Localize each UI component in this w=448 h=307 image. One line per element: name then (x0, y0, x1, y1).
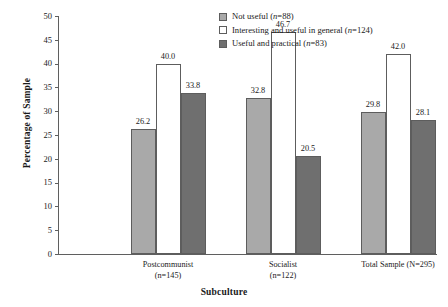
y-axis-tick-label: 40 (28, 59, 52, 68)
x-axis-title: Subculture (0, 287, 448, 297)
bar (296, 156, 321, 254)
y-axis-tick-label: 25 (28, 131, 52, 140)
y-axis-tick-label: 20 (28, 155, 52, 164)
y-axis-tick-mark (55, 183, 59, 184)
legend-swatch (219, 26, 227, 34)
bar-value-label: 28.1 (405, 109, 442, 117)
legend-label: Not useful (n=88) (232, 11, 294, 21)
bar (361, 112, 386, 254)
legend-item: Not useful (n=88) (219, 11, 434, 21)
x-axis-line (58, 254, 437, 255)
legend-swatch (219, 13, 227, 21)
bar-value-label: 40.0 (150, 53, 187, 61)
bar (271, 32, 296, 254)
y-axis-tick-mark (55, 135, 59, 136)
y-axis-tick-label: 35 (28, 83, 52, 92)
y-axis-tick-mark (55, 111, 59, 112)
legend-item: Useful and practical (n=83) (219, 38, 434, 48)
bar (386, 54, 411, 254)
y-axis-tick-label: 50 (28, 12, 52, 21)
y-axis-tick-mark (55, 87, 59, 88)
y-axis-tick-label: 10 (28, 202, 52, 211)
legend-label: Useful and practical (n=83) (232, 38, 327, 48)
chart-legend: Not useful (n=88)Interesting and useful … (219, 11, 434, 52)
y-axis-tick-mark (55, 40, 59, 41)
bar-value-label: 20.5 (290, 145, 327, 153)
bar (246, 98, 271, 254)
x-axis-category-label: Total Sample (N=295) (328, 260, 448, 271)
y-axis-tick-mark (55, 16, 59, 17)
bar (156, 64, 181, 254)
y-axis-tick-label: 30 (28, 107, 52, 116)
bar (181, 93, 206, 254)
y-axis-tick-label: 0 (28, 250, 52, 259)
y-axis-tick-mark (55, 64, 59, 65)
y-axis-tick-label: 5 (28, 226, 52, 235)
plot-area: 50454035302520151050 26.240.033.832.846.… (58, 16, 437, 254)
y-axis-tick-label: 15 (28, 178, 52, 187)
legend-label: Interesting and useful in general (n=124… (232, 25, 373, 35)
y-axis-tick-mark (55, 230, 59, 231)
y-axis-tick-mark (55, 206, 59, 207)
bar-value-label: 33.8 (175, 82, 212, 90)
bar (411, 120, 436, 254)
legend-item: Interesting and useful in general (n=124… (219, 25, 434, 35)
bar (131, 129, 156, 254)
y-axis-tick-mark (55, 254, 59, 255)
y-axis-tick-mark (55, 159, 59, 160)
bar-chart-figure: Percentage of Sample 5045403530252015105… (0, 0, 448, 307)
legend-swatch (219, 40, 227, 48)
y-axis-tick-label: 45 (28, 36, 52, 45)
